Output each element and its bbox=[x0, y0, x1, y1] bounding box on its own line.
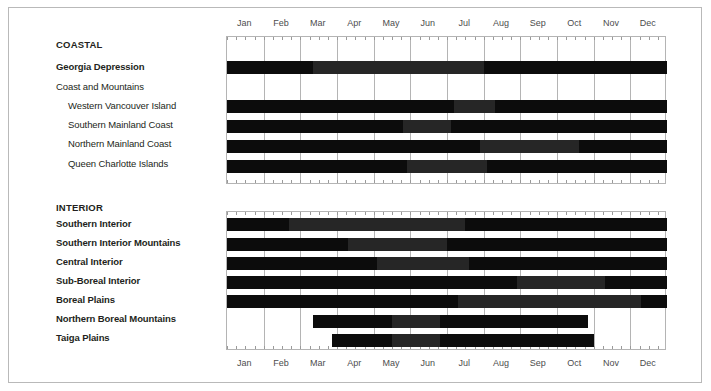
bar-northern-mainland-coast bbox=[227, 140, 667, 153]
month-label-jul: Jul bbox=[446, 18, 483, 28]
month-label-jan: Jan bbox=[226, 358, 263, 368]
bar-central-interior bbox=[227, 257, 667, 270]
row-label-column: COASTALGeorgia DepressionCoast and Mount… bbox=[0, 0, 226, 391]
bar-southern-interior-mountains bbox=[227, 238, 667, 251]
bar-segment-1 bbox=[348, 238, 447, 251]
bar-segment-2 bbox=[465, 218, 667, 231]
bar-segment-1 bbox=[377, 257, 469, 270]
bar-segment-0 bbox=[227, 257, 377, 270]
bar-southern-mainland-coast bbox=[227, 120, 667, 133]
bar-segment-0 bbox=[227, 120, 403, 133]
bar-segment-2 bbox=[440, 334, 594, 347]
bar-segment-0 bbox=[227, 100, 454, 113]
bar-queen-charlotte-islands bbox=[227, 160, 667, 173]
group-heading-coastal: COASTAL bbox=[56, 39, 103, 50]
row-label-central-interior: Central Interior bbox=[56, 256, 123, 267]
month-label-may: May bbox=[373, 18, 410, 28]
month-label-jul: Jul bbox=[446, 358, 483, 368]
bar-segment-1 bbox=[480, 140, 579, 153]
bar-segment-1 bbox=[407, 160, 488, 173]
bar-sub-boreal-interior bbox=[227, 276, 667, 289]
month-label-dec: Dec bbox=[629, 18, 666, 28]
bar-georgia-depression bbox=[227, 61, 667, 74]
bar-boreal-plains bbox=[227, 295, 667, 308]
month-label-oct: Oct bbox=[556, 18, 593, 28]
bar-segment-0 bbox=[227, 276, 517, 289]
month-label-apr: Apr bbox=[336, 18, 373, 28]
month-label-apr: Apr bbox=[336, 358, 373, 368]
chart-page: JanFebMarAprMayJunJulAugSepOctNovDec Jan… bbox=[0, 0, 711, 391]
month-axis-labels-top: JanFebMarAprMayJunJulAugSepOctNovDec bbox=[226, 18, 666, 32]
bar-segment-1 bbox=[403, 120, 451, 133]
row-label-northern-mainland-coast: Northern Mainland Coast bbox=[68, 138, 171, 149]
row-label-northern-boreal-mountains: Northern Boreal Mountains bbox=[56, 313, 176, 324]
bar-segment-2 bbox=[495, 100, 667, 113]
bar-segment-2 bbox=[440, 315, 589, 328]
interior-plot-area bbox=[226, 211, 666, 350]
bar-segment-1 bbox=[517, 276, 605, 289]
month-label-jun: Jun bbox=[409, 358, 446, 368]
bar-segment-1 bbox=[392, 334, 440, 347]
bar-segment-2 bbox=[484, 61, 667, 74]
bar-segment-2 bbox=[579, 140, 667, 153]
bar-segment-1 bbox=[289, 218, 465, 231]
month-label-feb: Feb bbox=[263, 358, 300, 368]
month-label-mar: Mar bbox=[299, 358, 336, 368]
row-label-coast-and-mountains: Coast and Mountains bbox=[56, 81, 144, 92]
bar-segment-0 bbox=[332, 334, 393, 347]
month-label-oct: Oct bbox=[556, 358, 593, 368]
row-label-georgia-depression: Georgia Depression bbox=[56, 61, 144, 72]
row-label-western-vancouver-island: Western Vancouver Island bbox=[68, 100, 176, 111]
month-label-jun: Jun bbox=[409, 18, 446, 28]
bar-segment-0 bbox=[227, 218, 289, 231]
bar-taiga-plains bbox=[332, 334, 594, 347]
bar-segment-0 bbox=[227, 238, 348, 251]
bar-segment-0 bbox=[227, 61, 313, 74]
month-label-aug: Aug bbox=[483, 18, 520, 28]
row-label-sub-boreal-interior: Sub-Boreal Interior bbox=[56, 275, 140, 286]
month-label-sep: Sep bbox=[519, 18, 556, 28]
bar-southern-interior bbox=[227, 218, 667, 231]
month-label-nov: Nov bbox=[593, 358, 630, 368]
bar-northern-boreal-mountains bbox=[313, 315, 588, 328]
month-label-jan: Jan bbox=[226, 18, 263, 28]
row-label-southern-interior: Southern Interior bbox=[56, 218, 131, 229]
bar-segment-1 bbox=[313, 61, 484, 74]
bar-segment-2 bbox=[487, 160, 667, 173]
tick-row-top bbox=[227, 37, 665, 42]
month-label-aug: Aug bbox=[483, 358, 520, 368]
bar-segment-2 bbox=[447, 238, 667, 251]
bar-segment-2 bbox=[641, 295, 667, 308]
row-label-southern-mainland-coast: Southern Mainland Coast bbox=[68, 119, 173, 130]
bar-segment-1 bbox=[458, 295, 641, 308]
month-label-nov: Nov bbox=[593, 18, 630, 28]
bar-segment-2 bbox=[605, 276, 667, 289]
month-axis-labels-bottom: JanFebMarAprMayJunJulAugSepOctNovDec bbox=[226, 358, 666, 372]
row-label-taiga-plains: Taiga Plains bbox=[56, 332, 110, 343]
bar-segment-0 bbox=[227, 140, 480, 153]
group-heading-interior: INTERIOR bbox=[56, 202, 103, 213]
row-label-queen-charlotte-islands: Queen Charlotte Islands bbox=[68, 158, 168, 169]
tick-row-top bbox=[227, 212, 665, 217]
month-label-dec: Dec bbox=[629, 358, 666, 368]
month-label-mar: Mar bbox=[299, 18, 336, 28]
bar-segment-0 bbox=[227, 295, 458, 308]
tick-row-bot bbox=[227, 178, 665, 183]
bar-segment-1 bbox=[392, 315, 440, 328]
bar-western-vancouver-island bbox=[227, 100, 667, 113]
bar-segment-2 bbox=[469, 257, 667, 270]
bar-segment-1 bbox=[454, 100, 494, 113]
row-label-southern-interior-mountains: Southern Interior Mountains bbox=[56, 237, 181, 248]
bar-segment-0 bbox=[313, 315, 392, 328]
coastal-plot-area bbox=[226, 36, 666, 184]
bar-segment-0 bbox=[227, 160, 407, 173]
month-label-sep: Sep bbox=[519, 358, 556, 368]
row-label-boreal-plains: Boreal Plains bbox=[56, 294, 115, 305]
month-label-feb: Feb bbox=[263, 18, 300, 28]
bar-segment-2 bbox=[451, 120, 667, 133]
month-label-may: May bbox=[373, 358, 410, 368]
